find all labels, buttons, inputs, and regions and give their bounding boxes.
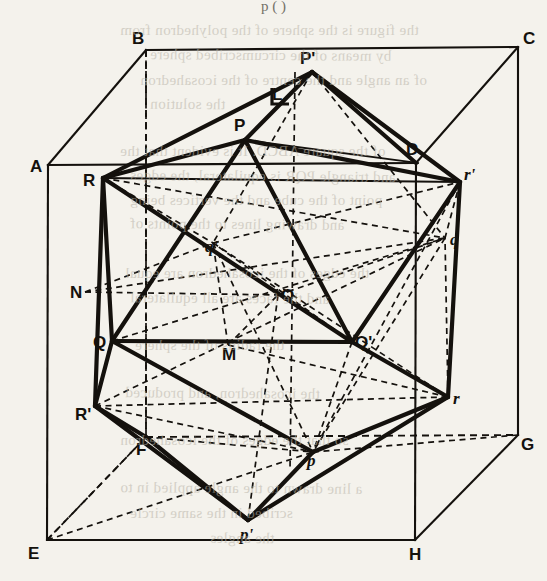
vertex-label-Qp: Q' [355,333,372,352]
icosa-edge-P-rprime [245,140,460,182]
inner-line-Q-M-Qprime [112,341,352,342]
cube-edge-AE [47,165,48,540]
icosa-edge-R-Q [103,178,112,341]
aux-line-E-Rprime-diag [47,437,146,540]
vertex-label-A: A [30,157,42,176]
vertex-label-q: q [450,230,459,249]
vertex-label-L: L [272,85,282,104]
aux-line-Q-q [112,238,445,341]
aux-line-N-O [85,292,278,295]
icosa-edge-R-Qprime [103,178,352,342]
cube-edge-DH [415,163,416,540]
vertex-label-Pp: P' [300,49,315,68]
icosa-edge-Pprime-D [312,72,416,163]
cube-edge-AB [48,50,146,165]
vertex-label-rp: r' [464,165,476,184]
cube-edge-GH [415,435,518,540]
vertex-label-C: C [523,29,535,48]
aux-line-rprime-p [313,182,460,452]
icosa-edge-F-pprime [146,437,248,520]
aux-line-axis-vertical [290,72,295,470]
cube-edge-BC [146,47,518,50]
vertex-label-E: E [28,544,39,563]
cube-edge-FG [146,435,518,437]
vertex-label-D: D [406,140,418,159]
vertex-label-P: P [234,116,245,135]
vertex-label-pp: p' [238,525,254,544]
icosa-edge-p-r [313,397,448,452]
vertex-label-qp: q' [205,237,219,256]
icosahedron-in-cube-diagram: ABCDEFGHLMNOPP'QQ'RR'pp'qq'rr' [0,0,547,581]
aux-line-qprime-r [213,243,448,397]
vertex-label-G: G [521,435,534,454]
vertex-label-N: N [70,283,82,302]
icosa-edge-rprime-r [448,182,460,397]
aux-line-Rprime-r [95,397,448,406]
vertex-label-p: p [305,451,316,470]
vertex-label-Rp: R' [75,405,91,424]
figure-root: p ( ) the figure is the sphere of the po… [0,0,547,581]
icosa-edge-pprime-r [248,397,448,520]
vertex-label-r: r [453,389,460,408]
aux-line-O-pprime [248,295,278,520]
aux-line-R-q [103,178,445,238]
vertex-label-F: F [136,440,146,459]
vertex-label-R: R [83,171,95,190]
vertex-label-B: B [132,29,144,48]
inner-line-R-rprime-horizontal [103,178,460,182]
vertex-label-Q: Q [93,333,106,352]
aux-line-q-p [313,238,445,452]
vertex-label-M: M [222,345,236,364]
vertex-label-O: O [281,286,294,305]
cube-edge-CD [416,47,518,163]
vertex-label-H: H [409,545,421,564]
